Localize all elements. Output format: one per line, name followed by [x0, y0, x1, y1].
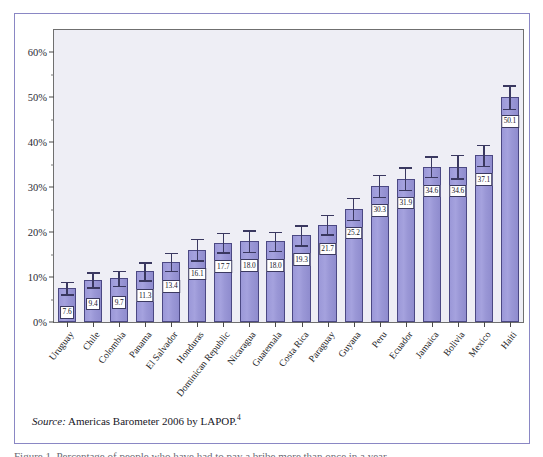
error-bar-cap-upper	[165, 253, 178, 254]
error-bar-cap-lower	[243, 252, 256, 253]
error-bar-line	[223, 233, 224, 253]
error-bar-line	[249, 230, 250, 252]
error-bar-cap-upper	[269, 232, 282, 233]
bar-value-label: 25.2	[345, 227, 363, 240]
source-label: Source:	[32, 415, 66, 427]
bar-value-label: 17.7	[215, 260, 233, 273]
bar-value-label: 18.0	[241, 259, 259, 272]
x-axis-tick	[275, 322, 276, 327]
bar-chart-plot-area: 0%10%20%30%40%50%60% 7.6Uruguay9.4Chile9…	[53, 29, 524, 323]
y-axis-tick-label: 60%	[28, 47, 47, 58]
error-bar-cap-lower	[503, 109, 516, 110]
x-axis-tick	[380, 322, 381, 327]
error-bar-cap-lower	[477, 166, 490, 167]
error-bar-line	[197, 239, 198, 261]
error-bar-line	[66, 282, 67, 295]
bar-group[interactable]: 31.9Ecuador	[393, 30, 419, 322]
bar-value-label: 37.1	[475, 173, 493, 186]
error-bar-cap-lower	[451, 178, 464, 179]
error-bar-line	[353, 198, 354, 220]
bar-group[interactable]: 37.1Mexico	[471, 30, 497, 322]
x-axis-tick	[249, 322, 250, 327]
x-axis-tick	[223, 322, 224, 327]
bar-group[interactable]: 18.0Nicaragua	[236, 30, 262, 322]
error-bar-line	[327, 215, 328, 235]
x-axis-tick	[197, 322, 198, 327]
source-note: Source: Americas Barometer 2006 by LAPOP…	[32, 413, 241, 427]
x-axis-tick	[93, 322, 94, 327]
bar-value-label: 19.3	[293, 253, 311, 266]
bar-group[interactable]: 21.7Paraguay	[315, 30, 341, 322]
bar-group[interactable]: 19.3Costa Rica	[289, 30, 315, 322]
error-bar-cap-upper	[139, 262, 152, 263]
error-bar-cap-lower	[295, 245, 308, 246]
error-bar-cap-upper	[217, 233, 230, 234]
bar-value-label: 21.7	[319, 243, 337, 256]
bar-group[interactable]: 34.6Jamaica	[419, 30, 445, 322]
bar[interactable]	[501, 97, 519, 322]
clipped-page-caption: Figure 1. Percentage of people who have …	[14, 450, 530, 457]
x-axis-tick	[406, 322, 407, 327]
error-bar-line	[92, 272, 93, 287]
y-axis-tick-label: 10%	[28, 272, 47, 283]
bar-value-label: 34.6	[449, 185, 467, 198]
y-axis-tick-label: 0%	[33, 317, 47, 328]
x-axis-tick	[302, 322, 303, 327]
bar-group[interactable]: 25.2Guyana	[341, 30, 367, 322]
x-axis-tick	[432, 322, 433, 327]
bar[interactable]	[214, 243, 232, 323]
x-axis-tick	[484, 322, 485, 327]
bar-group[interactable]: 7.6Uruguay	[54, 30, 80, 322]
bar-group[interactable]: 18.0Guatemala	[262, 30, 288, 322]
bar-group[interactable]: 9.4Chile	[80, 30, 106, 322]
bar-value-label: 50.1	[501, 115, 519, 128]
error-bar-cap-upper	[113, 271, 126, 272]
y-axis-tick-label: 50%	[28, 92, 47, 103]
error-bar-cap-upper	[373, 175, 386, 176]
error-bar-cap-upper	[243, 230, 256, 231]
bar-value-label: 11.3	[137, 289, 154, 302]
source-footnote-marker: 4	[237, 413, 241, 422]
error-bar-cap-lower	[269, 251, 282, 252]
error-bar-cap-lower	[87, 287, 100, 288]
x-axis-tick	[354, 322, 355, 327]
bar[interactable]	[345, 209, 363, 322]
error-bar-cap-upper	[477, 145, 490, 146]
bar-group[interactable]: 30.3Peru	[367, 30, 393, 322]
bar-value-label: 34.6	[423, 185, 441, 198]
y-axis-tick-label: 30%	[28, 182, 47, 193]
x-axis-tick	[458, 322, 459, 327]
error-bar-line	[483, 145, 484, 166]
bar-group[interactable]: 16.1Honduras	[184, 30, 210, 322]
error-bar-line	[118, 271, 119, 286]
error-bar-cap-upper	[191, 239, 204, 240]
bar-value-label: 9.7	[112, 296, 126, 309]
error-bar-cap-lower	[347, 220, 360, 221]
error-bar-cap-upper	[321, 215, 334, 216]
error-bar-cap-upper	[425, 156, 438, 157]
error-bar-cap-upper	[399, 167, 412, 168]
bar[interactable]	[292, 235, 310, 322]
error-bar-cap-lower	[61, 294, 74, 295]
bar-value-label: 9.4	[86, 298, 100, 311]
bar-value-label: 31.9	[397, 197, 415, 210]
bar-group[interactable]: 17.7Dominican Republic	[210, 30, 236, 322]
error-bar-cap-upper	[451, 155, 464, 156]
source-text: Americas Barometer 2006 by LAPOP.	[66, 415, 237, 427]
bar[interactable]	[266, 241, 284, 322]
bar-group[interactable]: 50.1Haiti	[497, 30, 523, 322]
error-bar-line	[144, 262, 145, 280]
bar-group[interactable]: 34.6Bolivia	[445, 30, 471, 322]
x-axis-tick	[328, 322, 329, 327]
error-bar-cap-upper	[503, 85, 516, 86]
error-bar-cap-upper	[347, 198, 360, 199]
error-bar-cap-lower	[425, 177, 438, 178]
error-bar-line	[275, 232, 276, 251]
bar[interactable]	[318, 225, 336, 322]
x-axis-tick	[119, 322, 120, 327]
bar-group[interactable]: 9.7Colombia	[106, 30, 132, 322]
bar-group[interactable]: 11.3Panama	[132, 30, 158, 322]
bar-value-label: 13.4	[162, 280, 180, 293]
bar-group[interactable]: 13.4El Salvador	[158, 30, 184, 322]
error-bar-cap-lower	[113, 286, 126, 287]
